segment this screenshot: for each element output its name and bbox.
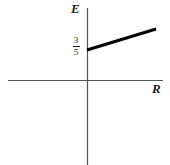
graph-figure: E R 3 5 [0, 0, 170, 165]
y-intercept-fraction-label: 3 5 [68, 36, 84, 57]
line-segment [87, 29, 156, 50]
fraction-denominator: 5 [68, 48, 84, 57]
x-axis-label: R [152, 82, 161, 95]
coordinate-plot [0, 0, 170, 165]
y-axis-label: E [71, 2, 80, 15]
fraction-numerator: 3 [68, 36, 84, 45]
